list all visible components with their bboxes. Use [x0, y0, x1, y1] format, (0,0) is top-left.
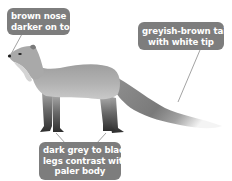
- body: [30, 62, 120, 99]
- tail: [114, 78, 222, 128]
- nose-label: brown nose darker on top: [7, 8, 70, 35]
- legs-label-line-2: legs contrast with: [43, 156, 117, 167]
- tail-label-line-1: greyish-brown tail: [142, 26, 220, 37]
- legs-label: dark grey to black legs contrast with pa…: [39, 142, 121, 180]
- legs-label-line-1: dark grey to black: [43, 145, 117, 156]
- nose-label-line-2: darker on top: [11, 22, 66, 33]
- mongoose-diagram: brown nose darker on top greyish-brown t…: [0, 0, 232, 181]
- tail-label-line-2: with white tip: [142, 37, 220, 48]
- nose: [8, 54, 11, 57]
- nose-label-line-1: brown nose: [11, 11, 66, 22]
- tail-leader-line: [178, 50, 200, 102]
- eye: [18, 53, 22, 55]
- tail-label: greyish-brown tail with white tip: [138, 22, 224, 50]
- front-leg-back: [52, 96, 64, 132]
- legs-label-line-3: paler body: [43, 166, 117, 177]
- front-leg-front: [40, 92, 52, 132]
